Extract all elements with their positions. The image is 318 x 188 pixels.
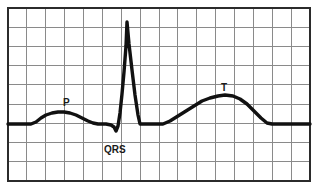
t-wave-label: T xyxy=(221,82,227,93)
p-wave-label: P xyxy=(63,97,70,108)
ecg-chart-canvas: PQRST xyxy=(0,0,318,188)
ecg-figure: PQRST xyxy=(0,0,318,188)
qrs-complex-label: QRS xyxy=(104,144,126,155)
